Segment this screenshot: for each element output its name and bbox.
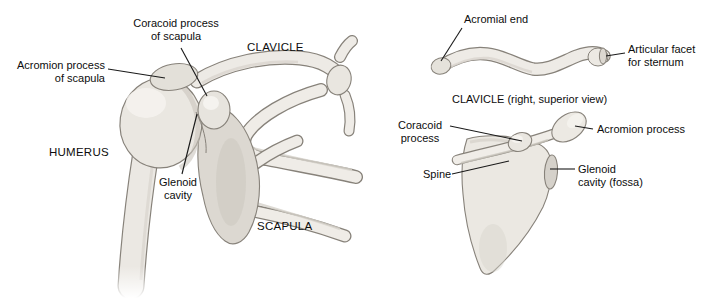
label-acromial-end: Acromial end bbox=[464, 13, 528, 26]
label-coracoid-process-left: Coracoid process of scapula bbox=[119, 17, 233, 43]
label-humerus: HUMERUS bbox=[49, 146, 109, 159]
left-shoulder-illustration bbox=[100, 41, 356, 298]
acromion-right bbox=[546, 106, 591, 148]
label-spine: Spine bbox=[423, 168, 451, 181]
label-glenoid-cavity-left: Glenoid cavity bbox=[150, 176, 206, 202]
label-clavicle-left: CLAVICLE bbox=[247, 41, 304, 54]
label-coracoid-process-right: Coracoid process bbox=[394, 119, 446, 145]
label-acromion-process-right: Acromion process bbox=[597, 123, 685, 136]
label-scapula: SCAPULA bbox=[257, 220, 312, 233]
caption-clavicle-view: CLAVICLE (right, superior view) bbox=[452, 93, 607, 106]
coracoid-left bbox=[198, 91, 230, 129]
label-articular-facet: Articular facet for sternum bbox=[628, 43, 695, 69]
label-acromion-process-left: Acromion process of scapula bbox=[10, 59, 105, 85]
label-glenoid-cavity-right: Glenoid cavity (fossa) bbox=[578, 163, 643, 189]
anatomy-figure: Coracoid process of scapula CLAVICLE Acr… bbox=[0, 0, 703, 298]
clavicle-superior-illustration bbox=[429, 48, 608, 76]
